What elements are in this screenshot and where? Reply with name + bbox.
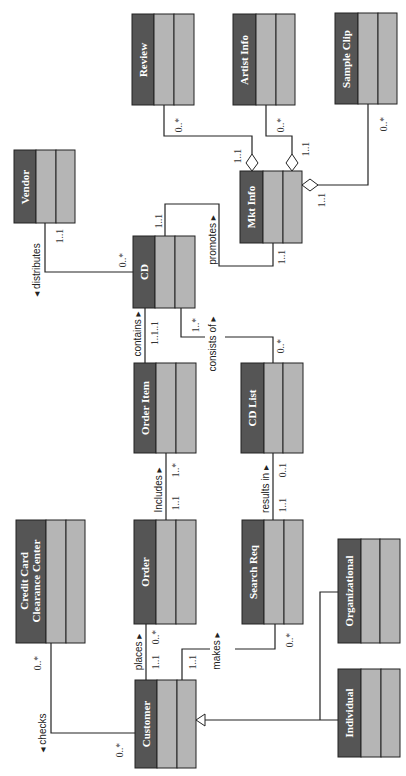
class-name: Order Item [139,381,151,435]
class-credit-card-clearance-center[interactable]: Credit Card Clearance Center [16,520,85,643]
mult-label: 1..1 [55,229,65,244]
mult-label: 1..1 [154,214,164,229]
aggregation-diamond-icon [302,179,318,191]
class-vendor[interactable]: Vendor [14,150,75,223]
mult-label: 1..1 [233,149,243,164]
class-name: Sample Clip [340,30,352,88]
class-cd[interactable]: CD [133,236,195,308]
assoc-label-promotes: promotes ▸ [207,215,218,264]
class-name: Customer [140,701,152,748]
class-name-line1: Credit Card [18,552,30,610]
mult-label: 0..* [276,339,286,354]
class-order-item[interactable]: Order Item [134,363,196,453]
aggregation-diamond-icon [246,154,258,171]
class-customer[interactable]: Customer [135,680,196,768]
assoc-label-makes: makes ▸ [211,632,222,669]
class-name: Review [137,43,149,77]
mult-label: 1..1..1 [150,321,160,345]
class-name: CD [138,264,150,280]
class-name: Individual [343,689,355,738]
assoc-makes-line [235,624,275,649]
generalization-org-line [320,592,338,720]
mult-label: 1..1 [188,655,198,670]
assoc-label-contains: contains ▸ [132,311,143,356]
class-name: Vendor [19,170,31,205]
mult-label: 0..1 [278,463,288,478]
assoc-label-checks: ◂ checks [37,714,48,753]
assoc-label-places: places ▸ [133,634,144,671]
mult-label: 1..* [171,463,181,478]
class-organizational[interactable]: Organizational [338,539,400,643]
mult-label: 1..1 [277,250,287,265]
assoc-consists-line-2 [225,337,273,363]
assoc-label-includes: Includes ▸ [153,467,164,512]
class-name-line2: Clearance Center [30,540,42,623]
mult-label: 0..* [285,633,295,648]
mult-label: 1..1 [278,498,288,513]
mult-label: 1..1 [171,496,181,511]
class-name: Organizational [343,556,355,627]
assoc-label-results-in: results in ▸ [260,465,271,513]
class-name: CD List [246,389,258,426]
mult-label: 1..1 [317,193,327,208]
mult-label: 1..1 [151,655,161,670]
mult-label: 0..* [118,253,128,268]
class-individual[interactable]: Individual [338,669,400,757]
class-order[interactable]: Order [134,520,196,624]
class-name: Search Req [247,544,259,599]
class-mkt-info[interactable]: Mkt Info [240,171,302,243]
generalization-arrow-icon [196,714,205,726]
class-cd-list[interactable]: CD List [241,363,303,453]
class-name: Artist Info [238,35,250,85]
mult-label: 0..* [115,743,125,758]
mult-label: 0..* [174,118,184,133]
class-search-req[interactable]: Search Req [242,520,303,624]
class-review[interactable]: Review [132,14,194,105]
mult-label: 1..* [191,318,201,333]
class-name: Mkt Info [245,185,257,228]
mult-label: 0..* [151,630,161,645]
uml-class-diagram: Review Artist Info Sample Clip Vendor Mk… [0,0,406,776]
aggregation-diamond-icon [286,154,298,171]
assoc-label-consists-of: consists of ▸ [207,316,218,371]
mult-label: 0..* [276,118,286,133]
assoc-checks-line [51,643,135,733]
class-sample-clip[interactable]: Sample Clip [335,13,397,104]
mult-label: 0..* [379,117,389,132]
class-artist-info[interactable]: Artist Info [233,14,295,105]
class-name: Order [139,557,151,586]
mult-label: 1..1 [301,142,311,157]
assoc-label-distributes: ◂ distributes [31,243,42,296]
mult-label: 0..* [33,656,43,671]
assoc-sample-mkt-line [317,104,368,185]
